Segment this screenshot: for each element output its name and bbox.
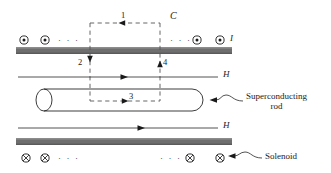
cross-in-circle-icon — [186, 154, 194, 162]
contour-label: C — [170, 11, 177, 22]
top-right-ellipsis: · · · — [170, 35, 192, 45]
dot-in-circle-icon — [20, 36, 28, 44]
lower-H-field-line — [18, 125, 218, 130]
dot-in-circle-icon — [41, 36, 49, 44]
superconducting-rod-label: Superconducting rod — [246, 92, 307, 111]
arrow-down-icon — [87, 56, 93, 63]
upper-field-label: H — [223, 70, 230, 80]
solenoid-label: Solenoid — [265, 152, 297, 162]
cross-in-circle-icon — [216, 154, 224, 162]
arrow-right-icon — [122, 98, 129, 104]
top-solenoid-bar — [16, 47, 232, 54]
superconducting-rod-leader — [210, 95, 244, 103]
arrow-right-icon — [138, 125, 146, 130]
bottom-solenoid-bar — [16, 138, 232, 145]
bottom-right-ellipsis: · · · — [160, 153, 182, 163]
arrow-left-icon — [119, 20, 126, 26]
superconducting-rod-body — [36, 89, 203, 111]
bottom-left-ellipsis: · · · — [58, 153, 80, 163]
loop-segment-2-label: 2 — [78, 58, 82, 67]
dot-in-circle-icon — [216, 36, 224, 44]
current-label: I — [230, 34, 233, 44]
superconducting-rod-label-line1: Superconducting — [246, 91, 307, 101]
physics-figure: 1 2 3 4 C I H H Superconducting rod Sole… — [0, 0, 331, 173]
figure-canvas — [0, 0, 331, 173]
upper-H-field-line — [18, 74, 218, 79]
loop-direction-arrows — [87, 20, 163, 104]
loop-segment-4-label: 4 — [163, 58, 167, 67]
dot-in-circle-icon — [193, 36, 201, 44]
cross-in-circle-icon — [41, 154, 49, 162]
top-left-ellipsis: · · · — [58, 35, 80, 45]
current-markers-top — [20, 36, 224, 44]
arrow-left-icon — [210, 97, 218, 102]
superconducting-rod-label-line2: rod — [271, 101, 283, 111]
arrow-left-icon — [228, 153, 236, 158]
arrow-up-icon — [157, 61, 163, 68]
solenoid-leader — [228, 152, 262, 159]
current-markers-bottom — [22, 154, 224, 162]
cross-in-circle-icon — [22, 154, 30, 162]
loop-segment-1-label: 1 — [121, 11, 125, 20]
arrow-right-icon — [121, 74, 129, 79]
loop-segment-3-label: 3 — [129, 92, 133, 101]
lower-field-label: H — [223, 121, 230, 131]
